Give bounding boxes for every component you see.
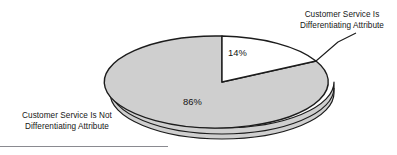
callout-label-differentiating: Customer Service Is Differentiating Attr…	[289, 9, 395, 31]
callout-label-not-differentiating: Customer Service Is Not Differentiating …	[6, 110, 128, 132]
slice-value-not-differentiating: 86%	[183, 96, 202, 107]
footer-divider	[0, 146, 168, 147]
pie-chart-figure: Customer Service Is Differentiating Attr…	[0, 0, 397, 155]
slice-value-differentiating: 14%	[228, 47, 247, 58]
leader-line-differentiating	[316, 33, 356, 61]
